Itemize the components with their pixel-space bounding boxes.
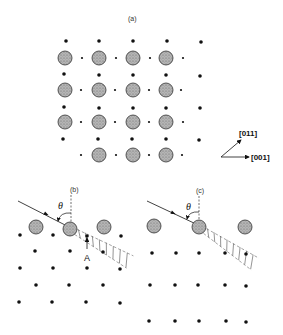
lattice-dot-small [149, 57, 151, 59]
panel-c-theta-label: θ [186, 201, 191, 212]
lattice-dot [101, 250, 105, 254]
lattice-dot [174, 251, 178, 255]
large-atom [92, 51, 106, 65]
panel-c: (c) θ [147, 187, 259, 324]
lattice-dot [224, 319, 228, 323]
lattice-dot [223, 251, 227, 255]
hatch-stroke [239, 247, 240, 260]
panel-b-theta-label: θ [58, 200, 63, 211]
large-atom [92, 148, 106, 162]
lattice-dot [96, 137, 100, 141]
lattice-dot [244, 252, 248, 256]
lattice-dot [131, 106, 135, 110]
hatch-stroke [92, 236, 93, 247]
lattice-dot-small [148, 154, 150, 156]
hatch-stroke [214, 232, 215, 242]
lattice-dot [165, 39, 169, 43]
lattice-dot [148, 283, 152, 287]
lattice-dot [198, 106, 202, 110]
lattice-dot [223, 283, 227, 287]
lattice-dot [50, 300, 54, 304]
lattice-dot [197, 138, 201, 142]
lattice-dot [33, 249, 37, 253]
hatch-stroke [119, 249, 120, 263]
lattice-dot [164, 137, 168, 141]
hatch-stroke [251, 255, 253, 270]
lattice-dot [97, 106, 101, 110]
panel-b-large-atoms [29, 220, 111, 236]
lattice-dot-small [181, 154, 183, 156]
large-atom [238, 220, 252, 234]
lattice-dot [84, 300, 88, 304]
lattice-dot [131, 39, 135, 43]
lattice-dot-small [115, 154, 117, 156]
lattice-dot [51, 266, 55, 270]
lattice-dot [130, 137, 134, 141]
lattice-dot [34, 283, 38, 287]
lattice-dot [62, 105, 66, 109]
lattice-dot-small [115, 57, 117, 59]
lattice-dot [119, 234, 123, 238]
lattice-dot-small [81, 57, 83, 59]
large-atom [147, 219, 161, 233]
large-atom [92, 83, 106, 97]
lattice-dot [67, 283, 71, 287]
panel-c-large-atoms [147, 219, 252, 234]
lattice-dot [61, 137, 65, 141]
panel-c-angle-arc [187, 212, 199, 219]
axis-011-label: [011] [239, 129, 258, 138]
lattice-dot [101, 283, 105, 287]
lattice-dot-small [180, 89, 182, 91]
axis-001-label: [001] [251, 153, 270, 162]
large-atom [58, 115, 72, 129]
lattice-dot [18, 233, 22, 237]
cone-edge [75, 234, 127, 268]
large-atom [126, 115, 140, 129]
crystal-axes: [011] [001] [221, 129, 270, 162]
large-atom [58, 51, 72, 65]
panel-b-angle-arc [58, 213, 71, 221]
lattice-dot-small [114, 121, 116, 123]
crystal-shadowing-diagram: (a) [011] [001] (b) θ A (c) θ [0, 0, 283, 335]
lattice-dot [62, 72, 66, 76]
lattice-dot [131, 73, 135, 77]
lattice-dot [173, 319, 177, 323]
panel-c-label: (c) [196, 187, 204, 195]
lattice-dot-small [80, 154, 82, 156]
panel-b-beam-arrow-icon [43, 211, 48, 215]
lattice-dot [85, 266, 89, 270]
panel-c-lattice-dots [147, 251, 248, 324]
lattice-dot-small [80, 89, 82, 91]
lattice-dot [68, 249, 72, 253]
lattice-dot [17, 300, 21, 304]
large-atom [58, 83, 72, 97]
lattice-dot [147, 319, 151, 323]
panel-c-beam-arrow-icon [170, 211, 175, 215]
panel-a-large-atoms [58, 51, 173, 162]
lattice-dot [197, 251, 201, 255]
lattice-dot-small [182, 57, 184, 59]
hatch-stroke [233, 243, 234, 255]
large-atom [126, 51, 140, 65]
panel-b: (b) θ A [17, 186, 133, 305]
panel-b-lattice-dots [17, 233, 123, 305]
lattice-dot-small [80, 121, 82, 123]
large-atom [126, 148, 140, 162]
large-atom [92, 115, 106, 129]
lattice-dot [51, 233, 55, 237]
lattice-dot [97, 39, 101, 43]
lattice-dot [244, 320, 248, 324]
lattice-dot-small [148, 121, 150, 123]
lattice-dot [164, 106, 168, 110]
cone-edge [203, 233, 251, 270]
lattice-dot [150, 251, 154, 255]
lattice-dot [97, 73, 101, 77]
large-atom [159, 83, 173, 97]
lattice-dot [85, 234, 89, 238]
lattice-dot-small [114, 89, 116, 91]
large-atom [29, 220, 43, 234]
panel-b-label: (b) [70, 186, 79, 194]
large-atom [126, 83, 140, 97]
lattice-dot [64, 39, 68, 43]
large-atom [159, 51, 173, 65]
